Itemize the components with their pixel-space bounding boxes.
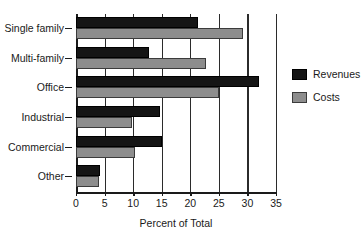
category-label-industrial: Industrial — [21, 112, 64, 123]
category-axis-tick — [65, 176, 72, 177]
gridline — [276, 14, 277, 192]
x-axis-tick — [133, 192, 134, 196]
bar-costs-other — [76, 176, 99, 187]
category-label-office: Office — [37, 82, 64, 93]
category-label-single-family: Single family — [4, 23, 64, 34]
bar-revenues-office — [76, 76, 259, 87]
category-axis: Single familyMulti-familyOfficeIndustria… — [0, 14, 72, 192]
bar-costs-industrial — [76, 117, 132, 128]
gridline — [105, 14, 106, 192]
x-axis-tick-label: 15 — [156, 198, 168, 209]
legend-item-revenues: Revenues — [292, 68, 360, 80]
gridline — [219, 14, 220, 192]
x-axis-title: Percent of Total — [76, 217, 276, 229]
bar-revenues-single-family — [76, 17, 198, 28]
category-axis-tick — [65, 28, 72, 29]
legend-item-costs: Costs — [292, 91, 360, 103]
x-axis-tick-label: 30 — [242, 198, 254, 209]
x-axis-tick — [247, 192, 248, 196]
x-axis-tick-label: 35 — [270, 198, 282, 209]
plot-area: 05101520253035 — [76, 14, 276, 192]
x-axis-tick-label: 10 — [127, 198, 139, 209]
bar-revenues-commercial — [76, 136, 162, 147]
category-label-commercial: Commercial — [8, 141, 64, 152]
bar-costs-multi-family — [76, 58, 206, 69]
category-label-other: Other — [38, 171, 64, 182]
bar-costs-commercial — [76, 147, 135, 158]
category-label-multi-family: Multi-family — [11, 52, 64, 63]
legend-label-revenues: Revenues — [313, 69, 360, 80]
x-axis-tick-label: 5 — [102, 198, 108, 209]
gridline — [190, 14, 191, 192]
bar-costs-office — [76, 87, 219, 98]
legend-label-costs: Costs — [313, 92, 340, 103]
x-axis-tick — [219, 192, 220, 196]
x-axis-line — [76, 192, 276, 194]
category-axis-tick — [65, 87, 72, 88]
gridline — [133, 14, 134, 192]
category-axis-tick — [65, 58, 72, 59]
category-axis-tick — [65, 147, 72, 148]
legend: Revenues Costs — [292, 68, 360, 114]
bar-costs-single-family — [76, 28, 243, 39]
x-axis-tick — [162, 192, 163, 196]
x-axis-tick-label: 0 — [73, 198, 79, 209]
bar-revenues-industrial — [76, 106, 160, 117]
x-axis-tick — [190, 192, 191, 196]
legend-swatch-revenues-icon — [292, 69, 307, 80]
bar-revenues-multi-family — [76, 47, 149, 58]
category-axis-tick — [65, 117, 72, 118]
gridline — [247, 14, 248, 192]
bar-revenues-other — [76, 165, 100, 176]
gridline — [162, 14, 163, 192]
bar-chart: Single familyMulti-familyOfficeIndustria… — [0, 0, 362, 245]
x-axis-tick-label: 20 — [184, 198, 196, 209]
legend-swatch-costs-icon — [292, 92, 307, 103]
x-axis-tick-label: 25 — [213, 198, 225, 209]
x-axis-tick — [76, 192, 77, 196]
x-axis-tick — [276, 192, 277, 196]
x-axis-tick — [105, 192, 106, 196]
